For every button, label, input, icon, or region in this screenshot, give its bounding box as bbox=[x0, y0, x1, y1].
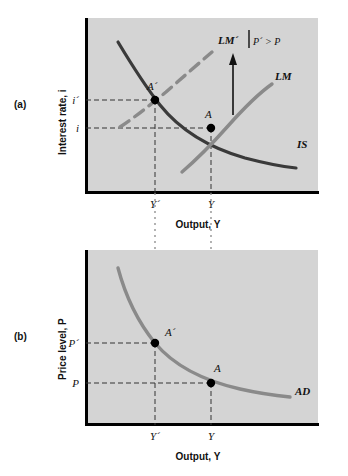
panel-a-point-a-prime-label: A´ bbox=[146, 80, 158, 92]
panel-a-ytick-low: i bbox=[76, 122, 79, 134]
panel-a-point-a-prime-marker bbox=[151, 96, 159, 104]
panel-a: (a) Interest rate, i Output, Y i´ i Y´ Y… bbox=[14, 18, 319, 230]
figure-canvas: (a) Interest rate, i Output, Y i´ i Y´ Y… bbox=[0, 0, 348, 476]
panel-b-y-axis-title: Price level, P bbox=[57, 318, 68, 380]
panel-a-x-axis-title: Output, Y bbox=[176, 219, 221, 230]
panel-a-tag: (a) bbox=[14, 99, 26, 110]
panel-b: (b) Price level, P Output, Y P´ P Y´ Y A… bbox=[14, 250, 319, 462]
panel-a-ytick-high: i´ bbox=[72, 94, 79, 106]
panel-b-ytick-high: P´ bbox=[68, 337, 80, 349]
lm-curve-label: LM bbox=[274, 70, 293, 82]
panel-b-point-a-label: A bbox=[213, 362, 221, 374]
panel-b-xtick-low: Y´ bbox=[150, 430, 160, 442]
is-curve-label: IS bbox=[296, 138, 307, 150]
panel-a-point-a-marker bbox=[207, 124, 215, 132]
panel-a-point-a-label: A bbox=[204, 108, 212, 120]
ad-curve-label: AD bbox=[294, 385, 310, 397]
panel-b-tag: (b) bbox=[14, 331, 27, 342]
is-lm-ad-figure: (a) Interest rate, i Output, Y i´ i Y´ Y… bbox=[0, 0, 348, 476]
panel-b-point-a-prime-label: A´ bbox=[164, 326, 176, 338]
panel-b-ytick-low: P bbox=[71, 377, 79, 389]
panel-b-point-a-marker bbox=[207, 379, 215, 387]
panel-b-x-axis-title: Output, Y bbox=[176, 451, 221, 462]
panel-a-y-axis-title: Interest rate, i bbox=[57, 89, 68, 155]
lm-prime-curve-label: LM´ bbox=[217, 34, 239, 46]
panel-a-xtick-high: Y bbox=[208, 198, 216, 210]
panel-b-point-a-prime-marker bbox=[151, 339, 159, 347]
panel-b-xtick-high: Y bbox=[208, 430, 216, 442]
price-comparison-annotation: P´ > P bbox=[252, 36, 280, 47]
